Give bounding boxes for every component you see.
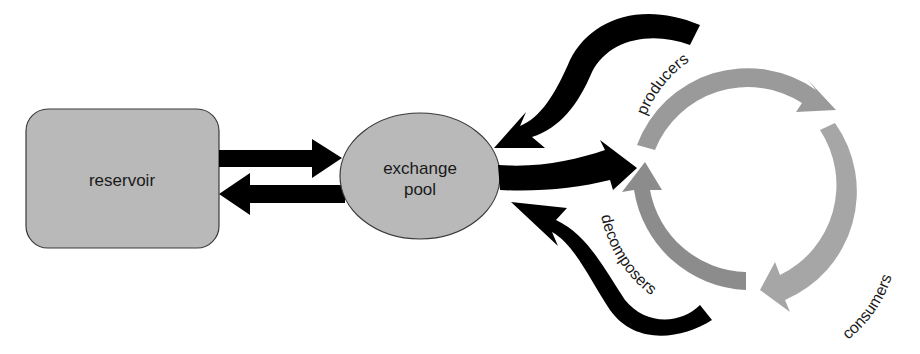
reservoir-label: reservoir [89, 171, 155, 190]
consumers-label: consumers [839, 272, 895, 343]
exchange-pool-node: exchange pool [340, 113, 500, 239]
exchange-pool-label-line2: pool [404, 180, 436, 199]
consumers-arc [760, 123, 857, 312]
reservoir-node: reservoir [26, 109, 219, 248]
exchange-pool-label-line1: exchange [383, 159, 457, 178]
arrow-reservoir-to-pool [219, 139, 342, 178]
arrow-pool-to-reservoir [219, 173, 345, 215]
cycle-diagram: reservoir exchange pool producers [0, 0, 920, 354]
